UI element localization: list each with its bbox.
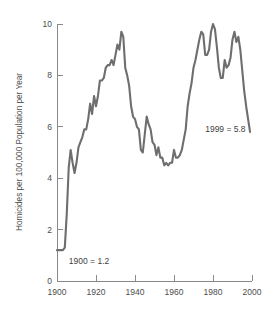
y-axis-group: 0246810	[43, 19, 63, 286]
y-tick-label: 8	[47, 70, 52, 80]
x-tick-label: 1920	[87, 287, 106, 297]
chart-annotations: 1900 = 1.21999 = 5.8	[69, 124, 246, 266]
y-axis-ticks	[57, 24, 63, 281]
y-tick-label: 6	[47, 122, 52, 132]
x-axis-ticks	[96, 275, 252, 281]
data-series-group	[57, 24, 250, 250]
x-tick-label: 2000	[243, 287, 262, 297]
homicide-rate-chart: 0246810 190019201940196019802000 Homicid…	[0, 0, 268, 320]
x-tick-label: 1940	[126, 287, 145, 297]
x-tick-label: 1980	[204, 287, 223, 297]
x-axis-group: 190019201940196019802000	[48, 275, 262, 297]
y-tick-label: 2	[47, 225, 52, 235]
y-axis-tick-labels: 0246810	[43, 19, 53, 286]
y-tick-label: 10	[43, 19, 53, 29]
y-tick-label: 0	[47, 276, 52, 286]
x-tick-label: 1900	[48, 287, 67, 297]
x-tick-label: 1960	[165, 287, 184, 297]
chart-canvas: 0246810 190019201940196019802000 Homicid…	[0, 0, 268, 320]
y-axis-title: Homicides per 100,000 Population per Yea…	[15, 73, 24, 231]
annotation-label: 1999 = 5.8	[205, 124, 246, 134]
annotation-label: 1900 = 1.2	[69, 256, 110, 266]
x-axis-tick-labels: 190019201940196019802000	[48, 287, 262, 297]
y-tick-label: 4	[47, 173, 52, 183]
data-line-homicide-rate	[57, 24, 250, 250]
